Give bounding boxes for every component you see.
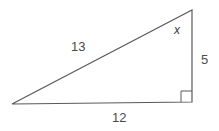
hypotenuse-label: 13	[71, 40, 85, 53]
triangle-shape	[0, 0, 219, 131]
right-angle-marker	[181, 91, 192, 102]
base-label: 12	[112, 111, 126, 124]
height-label: 5	[201, 53, 208, 66]
triangle-outline	[12, 10, 192, 104]
angle-label: x	[174, 24, 180, 36]
triangle-diagram: 13 12 5 x	[0, 0, 219, 131]
